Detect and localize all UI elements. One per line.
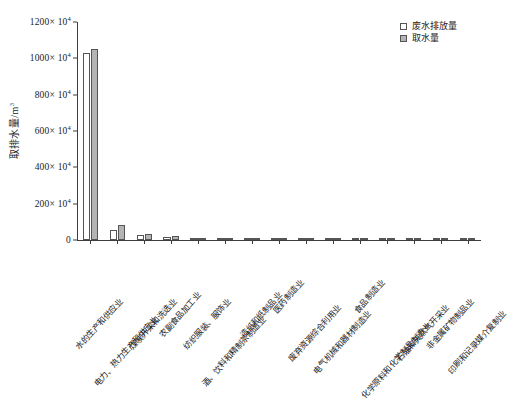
bar-discharge (271, 238, 279, 240)
x-tick-mark (171, 240, 172, 244)
bar-intake (252, 238, 260, 240)
chart-legend: 废水排放量取水量 (400, 22, 457, 46)
bar-intake (306, 238, 314, 240)
bar-discharge (406, 238, 414, 240)
bar-discharge (352, 238, 360, 240)
bar-group (158, 22, 185, 240)
y-axis-title: 取排水量/m3 (6, 103, 21, 160)
bar-intake (387, 238, 395, 240)
bar-intake (91, 49, 99, 240)
y-tick-label: 800× 104 (35, 90, 77, 100)
bar-discharge (110, 230, 118, 240)
y-axis-title-text: 取排水量/m (9, 106, 20, 159)
y-tick-label: 200× 104 (35, 199, 77, 209)
bar-intake (225, 238, 233, 240)
y-tick-label: 400× 104 (35, 162, 77, 172)
x-tick-mark (90, 240, 91, 244)
legend-label: 废水排放量 (412, 22, 457, 31)
bar-group (239, 22, 266, 240)
y-tick-label: 1200× 104 (30, 17, 77, 27)
bar-group (292, 22, 319, 240)
bar-group (131, 22, 158, 240)
bar-intake (414, 238, 422, 240)
x-tick-mark (414, 240, 415, 244)
x-tick-mark (333, 240, 334, 244)
bar-discharge (217, 238, 225, 240)
bar-intake (360, 238, 368, 240)
x-tick-mark (198, 240, 199, 244)
legend-label: 取水量 (412, 34, 439, 43)
bar-group (400, 22, 427, 240)
legend-item[interactable]: 废水排放量 (400, 22, 457, 31)
bar-group (266, 22, 293, 240)
bar-group (185, 22, 212, 240)
bar-group (77, 22, 104, 240)
bar-intake (145, 234, 153, 240)
bar-group (346, 22, 373, 240)
x-tick-mark (144, 240, 145, 244)
y-axis-title-exponent: 3 (8, 103, 15, 107)
x-tick-mark (225, 240, 226, 244)
x-tick-mark (441, 240, 442, 244)
x-tick-mark (468, 240, 469, 244)
bar-discharge (190, 238, 198, 240)
bar-discharge (298, 238, 306, 240)
bar-discharge (433, 238, 441, 240)
bar-group (373, 22, 400, 240)
legend-swatch-discharge (400, 23, 407, 30)
bar-group (454, 22, 481, 240)
x-tick-mark (252, 240, 253, 244)
bar-intake (172, 236, 180, 240)
x-tick-mark (360, 240, 361, 244)
legend-item[interactable]: 取水量 (400, 34, 457, 43)
plot-area: 0200× 104400× 104600× 104800× 1041000× 1… (77, 22, 481, 240)
bar-discharge (83, 53, 91, 240)
bar-intake (468, 238, 476, 240)
bar-group (319, 22, 346, 240)
bar-group (104, 22, 131, 240)
bar-intake (198, 238, 206, 240)
y-tick-label: 600× 104 (35, 126, 77, 136)
bar-discharge (137, 235, 145, 240)
x-axis-label: 水的生产和供应业 (116, 246, 169, 303)
bar-discharge (244, 238, 252, 240)
bar-intake (441, 238, 449, 240)
bar-discharge (163, 237, 171, 240)
y-tick-label: 1000× 104 (30, 53, 77, 63)
bar-discharge (379, 238, 387, 240)
bar-intake (333, 238, 341, 240)
bar-discharge (325, 238, 333, 240)
bar-intake (279, 238, 287, 240)
bar-intake (118, 225, 126, 240)
bar-group (427, 22, 454, 240)
x-tick-mark (117, 240, 118, 244)
x-tick-mark (279, 240, 280, 244)
x-tick-mark (306, 240, 307, 244)
legend-swatch-intake (400, 35, 407, 42)
bar-group (212, 22, 239, 240)
x-axis-label-text: 水的生产和供应业 (72, 295, 125, 352)
bar-discharge (460, 238, 468, 240)
x-tick-mark (387, 240, 388, 244)
